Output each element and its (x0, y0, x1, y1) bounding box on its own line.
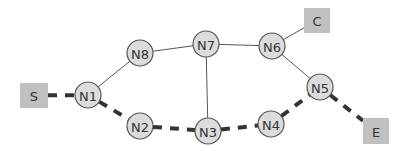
terminal-s: S (20, 83, 48, 108)
terminal-c: C (304, 8, 330, 33)
terminal-label: S (30, 89, 38, 104)
node-label: N2 (131, 120, 149, 135)
edge-n7-n3 (206, 57, 207, 118)
node-label: N3 (199, 125, 217, 140)
node-n6: N6 (259, 33, 285, 59)
edge-n5-e (330, 95, 363, 121)
node-n8: N8 (127, 40, 153, 66)
node-label: N8 (131, 47, 149, 62)
terminal-label: E (372, 125, 380, 140)
edge-n6-c (283, 28, 304, 40)
node-label: N6 (263, 40, 281, 55)
node-n7: N7 (193, 31, 219, 57)
edge-n8-n7 (153, 46, 193, 51)
terminal-label: C (312, 14, 321, 29)
edge-n1-n8 (98, 61, 130, 87)
edge-n6-n5 (282, 54, 310, 78)
network-diagram: SCEN1N2N3N4N5N6N7N8 (0, 0, 407, 156)
node-n2: N2 (127, 113, 153, 139)
edge-n4-n5 (281, 95, 309, 116)
edge-n2-n3 (153, 127, 195, 130)
node-n3: N3 (195, 118, 221, 144)
nodes: SCEN1N2N3N4N5N6N7N8 (20, 8, 389, 144)
node-n5: N5 (307, 74, 333, 100)
node-n4: N4 (258, 111, 284, 137)
terminal-e: E (363, 118, 389, 144)
edge-n7-n6 (219, 44, 259, 45)
edge-n3-n4 (221, 125, 258, 129)
node-n1: N1 (75, 82, 101, 108)
node-label: N5 (311, 81, 329, 96)
node-label: N1 (79, 89, 97, 104)
node-label: N4 (262, 118, 280, 133)
node-label: N7 (197, 38, 215, 53)
edge-n1-n2 (99, 102, 129, 120)
